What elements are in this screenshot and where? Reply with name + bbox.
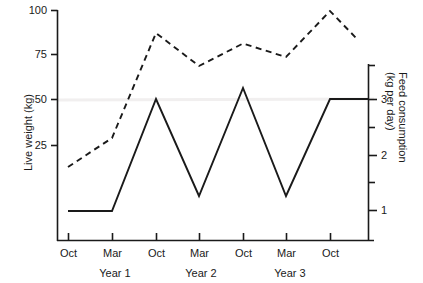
bottom-axis (57, 233, 374, 241)
series-feed-consumption-line (68, 88, 368, 211)
group-label-year-2: Year 2 (176, 268, 226, 279)
right-axis (369, 64, 378, 241)
x-tick-label-oct-1: Oct (48, 248, 89, 259)
chart-plot-svg (0, 0, 423, 283)
x-tick-label-oct-2: Oct (136, 248, 177, 259)
faint-horizontal-rule (57, 99, 374, 100)
x-tick-label-mar-2: Mar (179, 248, 220, 259)
y2-tick-label-1: 1 (381, 205, 397, 216)
y-tick-label-100: 100 (14, 5, 47, 16)
y2-tick-label-2: 2 (381, 150, 397, 161)
x-tick-label-mar-1: Mar (92, 248, 133, 259)
y-axis-title: Live weight (kg) (22, 94, 35, 171)
x-tick-label-mar-3: Mar (266, 248, 307, 259)
y2-axis-title-line2: (kg per day) (384, 72, 397, 131)
x-tick-label-oct-4: Oct (310, 248, 351, 259)
series-live-weight-line (68, 11, 358, 167)
chart-container: 100 75 50 25 3 2 1 Oct Mar Oct Mar Oct M… (0, 0, 423, 283)
group-label-year-1: Year 1 (90, 268, 140, 279)
y2-axis-title-line1: Feed consumption (396, 72, 409, 163)
x-tick-label-oct-3: Oct (223, 248, 264, 259)
y-tick-label-75: 75 (14, 49, 47, 60)
group-label-year-3: Year 3 (265, 268, 315, 279)
left-axis (51, 10, 58, 241)
